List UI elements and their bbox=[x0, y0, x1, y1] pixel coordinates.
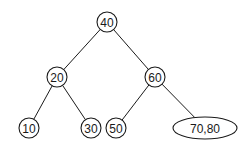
node-label: 10 bbox=[22, 122, 36, 136]
tree-node-10: 10 bbox=[19, 118, 39, 138]
edge-60-to-50 bbox=[122, 85, 149, 120]
node-label: 50 bbox=[109, 122, 123, 136]
tree-node-30: 30 bbox=[81, 118, 101, 138]
edge-20-to-10 bbox=[34, 86, 52, 119]
edge-60-to-70-80 bbox=[162, 84, 195, 117]
tree-diagram: 40206010305070,80 bbox=[0, 0, 250, 155]
tree-node-50: 50 bbox=[106, 118, 126, 138]
node-label: 70,80 bbox=[190, 122, 220, 136]
node-label: 40 bbox=[100, 16, 114, 30]
edge-40-to-60 bbox=[114, 30, 149, 70]
tree-node-20: 20 bbox=[47, 67, 67, 87]
tree-node-60: 60 bbox=[145, 67, 165, 87]
edge-40-to-20 bbox=[64, 29, 101, 69]
tree-node-70-80: 70,80 bbox=[173, 117, 237, 139]
node-label: 60 bbox=[148, 71, 162, 85]
node-label: 20 bbox=[50, 71, 64, 85]
node-label: 30 bbox=[84, 122, 98, 136]
tree-node-40: 40 bbox=[97, 12, 117, 32]
nodes-layer: 40206010305070,80 bbox=[19, 12, 237, 139]
edge-20-to-30 bbox=[63, 85, 86, 119]
